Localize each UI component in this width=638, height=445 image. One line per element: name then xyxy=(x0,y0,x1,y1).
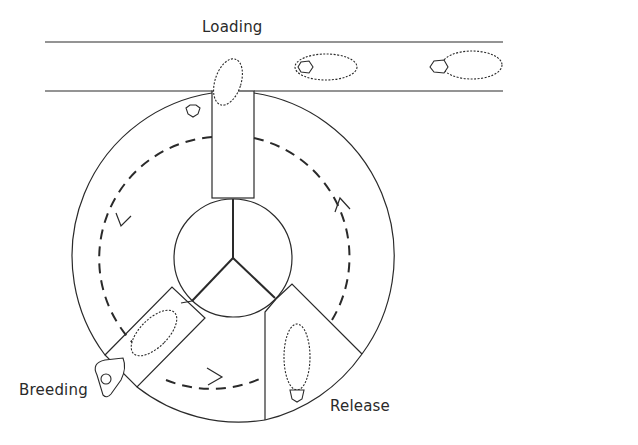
sheep-release-icon xyxy=(284,324,310,402)
sheep-breeding-icon xyxy=(124,303,185,364)
label-breeding: Breeding xyxy=(19,381,88,399)
outer-ring-bottom xyxy=(137,387,265,422)
hub-divider-right xyxy=(233,258,275,298)
facility-diagram xyxy=(0,0,638,445)
label-loading: Loading xyxy=(202,18,263,36)
arrow-right-icon xyxy=(335,198,350,212)
sheep-loading-icon xyxy=(186,55,248,117)
outer-ring-right xyxy=(254,93,394,354)
sheep-raceway-1-icon xyxy=(295,54,357,80)
loading-chute xyxy=(212,91,254,198)
arrow-left-icon xyxy=(116,213,131,226)
sheep-raceway-2-icon xyxy=(430,51,502,79)
rotation-path-bottom xyxy=(166,377,264,389)
label-release: Release xyxy=(330,397,390,415)
outer-ring-left xyxy=(72,93,212,355)
arrow-bottom-icon xyxy=(207,368,222,385)
hub-divider-left xyxy=(192,258,233,301)
operator-person-icon xyxy=(95,358,124,397)
